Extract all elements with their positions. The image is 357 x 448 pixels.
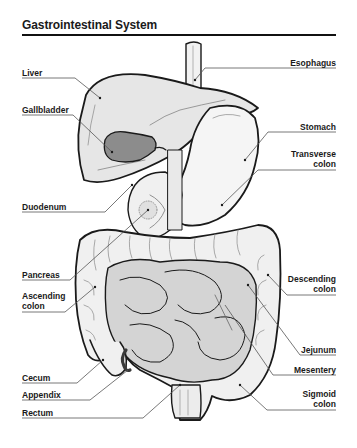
label-sigmoid-colon-line2: colon [313, 399, 336, 409]
label-rectum: Rectum [22, 408, 53, 418]
label-stomach: Stomach [300, 122, 336, 132]
label-mesentery: Mesentery [294, 365, 336, 375]
label-cecum: Cecum [22, 373, 50, 383]
label-duodenum: Duodenum [22, 202, 66, 212]
rectum-organ [171, 385, 201, 418]
label-pancreas: Pancreas [22, 270, 60, 280]
label-ascending-colon-line2: colon [22, 301, 45, 311]
label-gallbladder: Gallbladder [22, 105, 69, 115]
small-intestine-organ [105, 260, 256, 383]
label-transverse-colon-line2: colon [313, 159, 336, 169]
label-transverse-colon-line1: Transverse [291, 149, 336, 159]
label-appendix: Appendix [22, 390, 61, 400]
label-descending-colon-line2: colon [313, 284, 336, 294]
label-descending-colon-line1: Descending [288, 274, 336, 284]
label-ascending-colon-line1: Ascending [22, 291, 65, 301]
label-sigmoid-colon-line1: Sigmoid [302, 389, 336, 399]
label-jejunum: Jejunum [301, 345, 336, 355]
label-esophagus: Esophagus [290, 58, 336, 68]
label-liver: Liver [22, 68, 42, 78]
